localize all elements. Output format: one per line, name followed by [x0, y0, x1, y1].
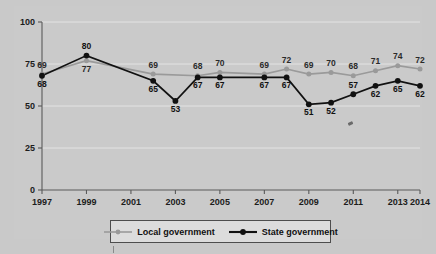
x-tick-label: 1997	[32, 197, 52, 207]
chart-legend: Local government State government	[110, 220, 331, 243]
data-points-layer	[39, 53, 423, 108]
y-axis-labels: 0255075100	[20, 17, 35, 195]
x-tick-label: 2005	[210, 197, 230, 207]
data-label: 65	[148, 84, 158, 94]
data-label: 53	[171, 104, 181, 114]
line-chart: 0255075100 19971999200120032005200720092…	[0, 0, 436, 254]
data-label: 69	[148, 60, 158, 70]
series-layer	[42, 56, 420, 105]
data-label: 52	[326, 106, 336, 116]
data-point	[84, 58, 89, 63]
data-label: 65	[393, 84, 403, 94]
y-tick-label: 0	[30, 185, 35, 195]
data-label: 68	[37, 79, 47, 89]
data-label: 57	[349, 80, 359, 90]
y-axis-ticks	[38, 22, 42, 190]
data-point	[84, 53, 90, 59]
legend-item-local[interactable]: Local government	[103, 227, 215, 237]
data-label: 80	[82, 41, 92, 51]
x-tick-label: 2007	[254, 197, 274, 207]
x-tick-label: 2009	[299, 197, 319, 207]
data-point	[373, 68, 378, 73]
page-edge-tick	[113, 246, 114, 253]
legend-label-local: Local government	[137, 227, 215, 237]
data-label: 67	[193, 80, 203, 90]
data-label: 67	[282, 80, 292, 90]
y-tick-label: 100	[20, 17, 35, 27]
legend-label-state: State government	[262, 227, 338, 237]
data-label: 72	[282, 55, 292, 65]
series-line-local	[42, 61, 420, 76]
y-tick-label: 75	[25, 59, 35, 69]
data-point	[306, 72, 311, 77]
x-tick-label: 2014	[410, 197, 430, 207]
data-label: 69	[260, 60, 270, 70]
x-tick-label: 2013	[388, 197, 408, 207]
legend-swatch-local-icon	[103, 227, 133, 237]
x-tick-label: 2011	[344, 197, 364, 207]
legend-swatch-state-icon	[228, 227, 258, 237]
data-point	[329, 70, 334, 75]
legend-item-state[interactable]: State government	[228, 227, 338, 237]
data-label: 70	[326, 58, 336, 68]
data-label: 70	[215, 58, 225, 68]
y-tick-label: 25	[25, 143, 35, 153]
data-point	[350, 91, 356, 97]
data-point	[418, 67, 423, 72]
data-label: 69	[37, 60, 47, 70]
figure-page: 0255075100 19971999200120032005200720092…	[0, 0, 436, 254]
x-axis-labels: 1997199920012003200520072009201120132014	[32, 197, 430, 207]
y-tick-label: 50	[25, 101, 35, 111]
data-label: 68	[193, 61, 203, 71]
gridlines	[42, 22, 420, 148]
data-label: 71	[371, 56, 381, 66]
data-point	[351, 73, 356, 78]
data-label: 74	[393, 51, 403, 61]
data-point	[395, 63, 400, 68]
data-point	[217, 70, 222, 75]
data-label: 62	[415, 89, 425, 99]
x-tick-label: 2001	[121, 197, 141, 207]
data-label: 69	[304, 60, 314, 70]
data-label: 62	[371, 89, 381, 99]
data-label: 72	[415, 55, 425, 65]
data-label: 67	[215, 80, 225, 90]
data-point	[284, 67, 289, 72]
x-tick-label: 2003	[165, 197, 185, 207]
data-label: 51	[304, 107, 314, 117]
chart-svg: 0255075100 19971999200120032005200720092…	[0, 0, 436, 254]
x-tick-label: 1999	[76, 197, 96, 207]
data-label: 68	[349, 61, 359, 71]
data-point	[151, 72, 156, 77]
data-label: 77	[82, 64, 92, 74]
data-label: 67	[260, 80, 270, 90]
x-axis-ticks	[42, 190, 420, 194]
